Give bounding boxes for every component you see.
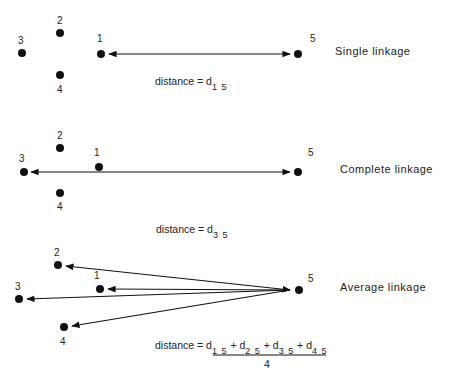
average-linkage-distance: distance = d1 5 + d2 5 + d3 5 + d4 5 [155,340,327,356]
arrow-5-4 [72,290,290,326]
label-point-1: 1 [94,148,100,158]
point-2 [56,144,64,152]
arrow-5-1 [108,289,290,290]
single-linkage-distance: distance = d1 5 [155,76,227,92]
label-point-3: 3 [15,282,21,292]
complete-linkage-distance: distance = d3 5 [156,224,228,240]
label-point-5: 5 [308,274,314,284]
label-point-2: 2 [57,131,63,141]
denominator: 4 [264,359,270,370]
point-2 [54,261,62,269]
label-point-5: 5 [308,148,314,158]
point-5 [295,286,303,294]
point-3 [18,49,26,57]
point-3 [20,168,28,176]
single-linkage-title: Single linkage [335,46,411,57]
term-d15: d1 5 [206,339,227,351]
single-linkage-panel [18,29,302,79]
arrow-5-3 [27,290,290,299]
label-point-3: 3 [18,36,24,46]
term-d25: d2 5 [239,339,260,351]
average-linkage-panel [15,261,303,331]
label-point-4: 4 [57,85,63,95]
point-3 [15,295,23,303]
label-point-5: 5 [310,34,316,44]
label-point-4: 4 [60,337,66,347]
point-1 [96,285,104,293]
label-point-1: 1 [94,271,100,281]
point-1 [97,50,105,58]
complete-linkage-title: Complete linkage [340,164,433,175]
point-4 [56,189,64,197]
point-4 [56,71,64,79]
label-point-1: 1 [97,34,103,44]
complete-linkage-panel [20,144,302,197]
label-point-2: 2 [57,16,63,26]
point-5 [294,50,302,58]
point-4 [60,323,68,331]
label-point-3: 3 [19,154,25,164]
average-linkage-title: Average linkage [340,282,426,293]
point-1 [95,163,103,171]
term-d45: d4 5 [306,339,327,351]
point-5 [294,168,302,176]
term-d35: d3 5 [273,339,294,351]
label-point-2: 2 [54,248,60,258]
label-point-4: 4 [57,202,63,212]
point-2 [56,29,64,37]
